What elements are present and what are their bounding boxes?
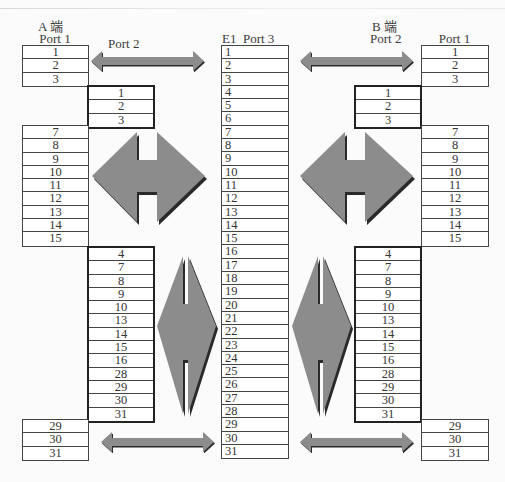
timeslot-cell: 13 [222, 206, 288, 219]
timeslot-cell: 9 [356, 288, 420, 301]
timeslot-cell: 8 [422, 139, 488, 152]
timeslot-cell: 8 [222, 139, 288, 152]
timeslot-cell: 16 [89, 354, 153, 367]
timeslot-cell: 2 [422, 59, 488, 72]
timeslot-cell: 11 [422, 179, 488, 192]
timeslot-cell: 15 [356, 341, 420, 354]
timeslot-cell: 1 [222, 46, 288, 59]
timeslot-cell: 31 [222, 445, 288, 458]
timeslot-cell: 4 [89, 248, 153, 261]
timeslot-cell: 7 [356, 261, 420, 274]
timeslot-cell: 2 [356, 100, 420, 113]
timeslot-cell: 1 [89, 87, 153, 100]
bidirectional-diamond-arrow-icon [298, 130, 418, 230]
timeslot-cell: 23 [222, 339, 288, 352]
timeslot-cell: 31 [23, 447, 88, 460]
timeslot-cell: 8 [89, 275, 153, 288]
b-port1-bottom-block: 29 30 31 [421, 419, 489, 461]
bidirectional-diamond-arrow-icon [90, 130, 210, 230]
timeslot-cell: 29 [356, 381, 420, 394]
timeslot-cell: 30 [222, 432, 288, 445]
double-headed-arrow-icon [100, 431, 215, 453]
timeslot-cell: 20 [222, 299, 288, 312]
a-port2-top-block: 1 2 3 [87, 85, 155, 129]
timeslot-cell: 17 [222, 259, 288, 272]
timeslot-cell: 11 [23, 179, 88, 192]
timeslot-cell: 24 [222, 352, 288, 365]
timeslot-cell: 19 [222, 285, 288, 298]
b-port1-top-block: 1 2 3 [421, 45, 489, 87]
timeslot-cell: 2 [23, 59, 88, 72]
timeslot-cell: 14 [89, 328, 153, 341]
timeslot-cell: 4 [356, 248, 420, 261]
timeslot-cell: 2 [89, 100, 153, 113]
timeslot-cell: 31 [422, 447, 488, 460]
timeslot-cell: 7 [422, 126, 488, 139]
timeslot-cell: 21 [222, 312, 288, 325]
e1-port3-label: E1 Port 3 [222, 32, 274, 45]
bidirectional-diamond-arrow-icon [290, 252, 355, 422]
timeslot-cell: 10 [89, 301, 153, 314]
timeslot-cell: 10 [356, 301, 420, 314]
timeslot-cell: 15 [422, 232, 488, 245]
timeslot-cell: 28 [356, 368, 420, 381]
scan-artifact-line [0, 8, 505, 9]
timeslot-cell: 3 [89, 114, 153, 127]
timeslot-cell: 14 [356, 328, 420, 341]
timeslot-cell: 13 [89, 314, 153, 327]
timeslot-cell: 9 [422, 153, 488, 166]
timeslot-cell: 7 [23, 126, 88, 139]
timeslot-cell: 7 [222, 126, 288, 139]
timeslot-cell: 28 [89, 368, 153, 381]
timeslot-cell: 13 [23, 206, 88, 219]
timeslot-cell: 7 [89, 261, 153, 274]
timeslot-cell: 29 [222, 418, 288, 431]
timeslot-cell: 12 [23, 192, 88, 205]
double-headed-arrow-icon [90, 50, 205, 72]
timeslot-cell: 13 [422, 206, 488, 219]
timeslot-cell: 3 [222, 73, 288, 86]
timeslot-cell: 31 [356, 408, 420, 421]
double-headed-arrow-icon [299, 431, 414, 453]
timeslot-cell: 13 [356, 314, 420, 327]
timeslot-cell: 8 [356, 275, 420, 288]
timeslot-cell: 12 [222, 192, 288, 205]
timeslot-cell: 14 [422, 219, 488, 232]
timeslot-cell: 1 [356, 87, 420, 100]
timeslot-cell: 5 [222, 99, 288, 112]
b-port2-top-block: 1 2 3 [354, 85, 422, 129]
timeslot-cell: 16 [222, 245, 288, 258]
timeslot-cell: 22 [222, 325, 288, 338]
a-port1-mid-block: 7 8 9 10 11 12 13 14 15 [22, 125, 89, 247]
timeslot-cell: 4 [222, 86, 288, 99]
timeslot-cell: 30 [89, 394, 153, 407]
timeslot-cell: 3 [23, 73, 88, 86]
timeslot-cell: 29 [23, 420, 88, 433]
timeslot-cell: 1 [23, 46, 88, 59]
timeslot-cell: 29 [422, 420, 488, 433]
timeslot-cell: 3 [356, 114, 420, 127]
e1-port3-column: 1 2 3 4 5 6 7 8 9 10 11 12 13 14 15 16 1… [221, 45, 289, 459]
timeslot-cell: 10 [422, 166, 488, 179]
a-port2-bottom-block: 4 7 8 9 10 13 14 15 16 28 29 30 31 [87, 246, 155, 423]
timeslot-cell: 15 [23, 232, 88, 245]
bidirectional-diamond-arrow-icon [155, 252, 220, 422]
timeslot-cell: 14 [222, 219, 288, 232]
timeslot-cell: 9 [89, 288, 153, 301]
timeslot-cell: 28 [222, 405, 288, 418]
b-end-port2-label: Port 2 [370, 32, 401, 45]
timeslot-cell: 8 [23, 139, 88, 152]
timeslot-cell: 3 [422, 73, 488, 86]
a-port1-bottom-block: 29 30 31 [22, 419, 89, 461]
a-end-port1-label: Port 1 [22, 32, 88, 45]
b-port2-bottom-block: 4 7 8 9 10 13 14 15 16 28 29 30 31 [354, 246, 422, 423]
a-port1-top-block: 1 2 3 [22, 45, 89, 87]
timeslot-cell: 12 [422, 192, 488, 205]
timeslot-cell: 31 [89, 408, 153, 421]
timeslot-cell: 11 [222, 179, 288, 192]
b-end-port1-label: Port 1 [421, 32, 488, 45]
timeslot-cell: 30 [23, 433, 88, 446]
timeslot-cell: 14 [23, 219, 88, 232]
timeslot-cell: 27 [222, 392, 288, 405]
timeslot-cell: 1 [422, 46, 488, 59]
